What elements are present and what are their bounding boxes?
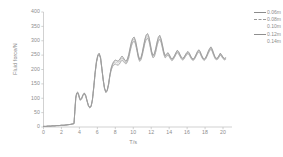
y-tick-label: 100 (20, 96, 40, 101)
y-axis-title: Fluid force/N (12, 43, 18, 75)
series-line-0.12m (44, 34, 226, 127)
legend-item-label: 0.06m (267, 10, 281, 15)
x-tick-label: 6 (89, 130, 105, 135)
x-tick-label: 16 (179, 130, 195, 135)
x-tick-label: 4 (71, 130, 87, 135)
legend-item-label: 0.10m (267, 24, 281, 29)
y-tick-label: 200 (20, 67, 40, 72)
y-tick-label: 350 (20, 24, 40, 29)
x-tick-label: 0 (36, 130, 52, 135)
y-tick-label: 250 (20, 52, 40, 57)
legend-line-swatch (254, 24, 266, 29)
y-tick-label: 50 (20, 110, 40, 115)
y-tick-label: 400 (20, 9, 40, 14)
legend-item[interactable]: 0.12m (254, 31, 281, 37)
legend-item[interactable]: 0.14m (254, 39, 281, 45)
legend-line-swatch (254, 32, 266, 37)
legend-item[interactable]: 0.06m (254, 9, 281, 15)
x-axis-title: T/s (113, 139, 153, 145)
data-series-group (44, 34, 226, 127)
y-tick-label: 0 (20, 124, 40, 129)
legend-item-label: 0.08m (267, 17, 281, 22)
legend-item[interactable]: 0.10m (254, 24, 281, 30)
x-tick-label: 14 (161, 130, 177, 135)
legend-line-swatch (254, 39, 266, 44)
legend-line-swatch (254, 17, 266, 22)
fluid-force-line-chart: 050100150200250300350400 024681012141618… (0, 0, 283, 157)
series-line-0.10m (44, 36, 226, 127)
legend-line-swatch (254, 10, 266, 15)
series-line-0.06m (44, 34, 226, 127)
legend-item[interactable]: 0.08m (254, 16, 281, 22)
x-tick-label: 8 (107, 130, 123, 135)
x-tick-label: 2 (53, 130, 69, 135)
legend-item-label: 0.12m (267, 32, 281, 37)
x-tick-label: 10 (125, 130, 141, 135)
legend-item-label: 0.14m (267, 39, 281, 44)
x-tick-label: 18 (197, 130, 213, 135)
y-tick-label: 150 (20, 81, 40, 86)
y-tick-label: 300 (20, 38, 40, 43)
x-tick-label: 20 (215, 130, 231, 135)
x-tick-label: 12 (143, 130, 159, 135)
legend: 0.06m0.08m0.10m0.12m0.14m (254, 9, 281, 45)
axes (41, 12, 232, 129)
